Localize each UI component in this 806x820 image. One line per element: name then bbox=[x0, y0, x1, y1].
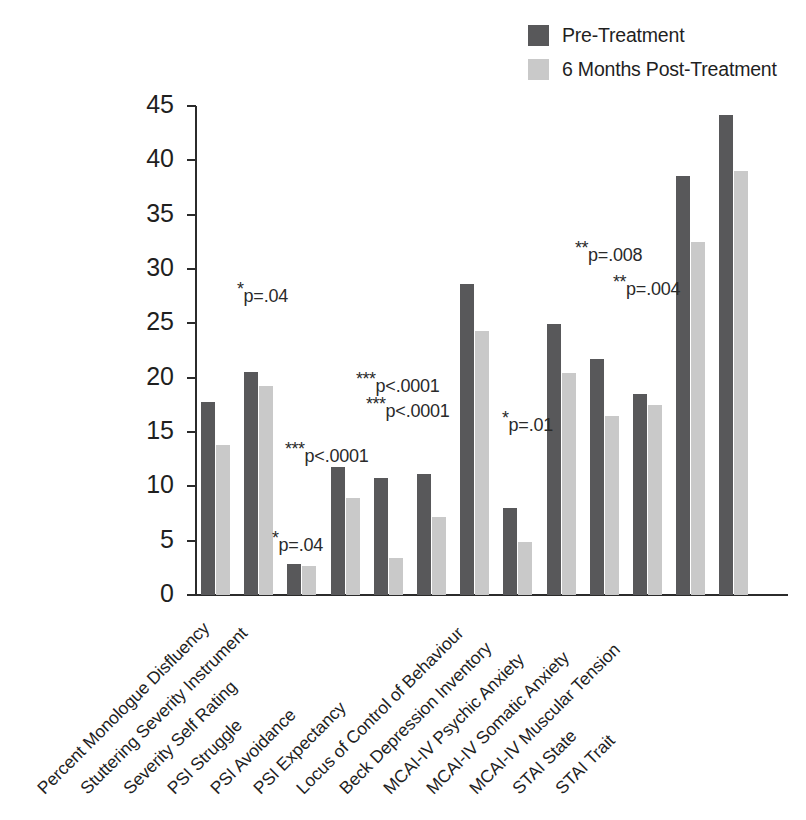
bar-chart-figure: Pre-Treatment 6 Months Post-Treatment 05… bbox=[0, 0, 806, 820]
bar bbox=[460, 284, 474, 595]
bar-group bbox=[331, 106, 361, 595]
significance-p-value: p=.004 bbox=[626, 279, 680, 299]
bar-group bbox=[590, 106, 620, 595]
significance-stars: *** bbox=[366, 394, 386, 414]
y-axis-tick-label: 30 bbox=[126, 255, 174, 280]
bar bbox=[518, 542, 532, 595]
bar bbox=[417, 474, 431, 595]
bar bbox=[648, 405, 662, 595]
bar bbox=[302, 566, 316, 595]
bar-group bbox=[417, 106, 447, 595]
significance-p-value: p<.0001 bbox=[386, 401, 450, 421]
bar-group bbox=[460, 106, 490, 595]
significance-annotation: ***p<.0001 bbox=[366, 394, 450, 422]
significance-p-value: p=.01 bbox=[509, 415, 554, 435]
bar-series-container bbox=[195, 106, 785, 595]
bar bbox=[201, 402, 215, 595]
bar bbox=[374, 478, 388, 595]
legend-item-pre-treatment: Pre-Treatment bbox=[528, 18, 798, 52]
bar-group bbox=[374, 106, 404, 595]
significance-p-value: p<.0001 bbox=[305, 446, 369, 466]
significance-annotation: **p=.008 bbox=[575, 238, 642, 266]
bar bbox=[216, 445, 230, 595]
x-axis-labels: Percent Monologue DisfluencyStuttering S… bbox=[195, 596, 795, 816]
legend-swatch-icon-post bbox=[528, 59, 549, 80]
y-axis-tick-label: 5 bbox=[126, 527, 174, 552]
bar bbox=[633, 394, 647, 595]
significance-annotation: *p=.04 bbox=[272, 528, 323, 556]
bar bbox=[590, 359, 604, 595]
bar bbox=[562, 373, 576, 595]
bar bbox=[503, 508, 517, 595]
bar bbox=[432, 517, 446, 595]
y-axis-tick-label: 15 bbox=[126, 418, 174, 443]
legend-label-post: 6 Months Post-Treatment bbox=[562, 58, 777, 81]
legend-item-post-treatment: 6 Months Post-Treatment bbox=[528, 52, 798, 86]
y-axis-tick-label: 0 bbox=[126, 581, 174, 606]
significance-p-value: p=.04 bbox=[279, 535, 324, 555]
y-axis-tick-label: 10 bbox=[126, 472, 174, 497]
significance-annotation: **p=.004 bbox=[613, 272, 680, 300]
bar bbox=[331, 467, 345, 595]
bar-group bbox=[547, 106, 577, 595]
bar bbox=[475, 331, 489, 595]
significance-annotation: ***p<.0001 bbox=[356, 369, 440, 397]
significance-stars: ** bbox=[575, 238, 588, 258]
bar-group bbox=[287, 106, 317, 595]
chart-legend: Pre-Treatment 6 Months Post-Treatment bbox=[528, 18, 798, 86]
significance-annotation: *p=.01 bbox=[502, 408, 553, 436]
y-axis-tick-label: 40 bbox=[126, 146, 174, 171]
legend-swatch-icon-pre bbox=[528, 25, 549, 46]
significance-stars: *** bbox=[356, 369, 376, 389]
bar bbox=[719, 115, 733, 595]
legend-label-pre: Pre-Treatment bbox=[562, 24, 684, 47]
bar-group bbox=[244, 106, 274, 595]
significance-p-value: p<.0001 bbox=[376, 376, 440, 396]
bar bbox=[287, 564, 301, 596]
bar-group bbox=[676, 106, 706, 595]
significance-stars: ** bbox=[613, 272, 626, 292]
y-axis-tick-label: 45 bbox=[126, 92, 174, 117]
bar bbox=[346, 498, 360, 595]
bar-group bbox=[719, 106, 749, 595]
significance-p-value: p=.04 bbox=[244, 286, 289, 306]
bar bbox=[605, 416, 619, 595]
plot-area bbox=[195, 106, 785, 595]
bar bbox=[259, 386, 273, 595]
bar bbox=[691, 242, 705, 595]
bar bbox=[244, 372, 258, 595]
significance-stars: *** bbox=[285, 439, 305, 459]
bar bbox=[389, 558, 403, 595]
bar bbox=[734, 171, 748, 595]
bar-group bbox=[201, 106, 231, 595]
bar bbox=[547, 324, 561, 595]
significance-p-value: p=.008 bbox=[588, 245, 642, 265]
y-axis-tick-label: 25 bbox=[126, 309, 174, 334]
significance-annotation: ***p<.0001 bbox=[285, 439, 369, 467]
bar-group bbox=[503, 106, 533, 595]
bar-group bbox=[633, 106, 663, 595]
bar bbox=[676, 176, 690, 595]
y-axis-tick-label: 35 bbox=[126, 201, 174, 226]
significance-annotation: *p=.04 bbox=[237, 279, 288, 307]
y-axis-tick-label: 20 bbox=[126, 364, 174, 389]
